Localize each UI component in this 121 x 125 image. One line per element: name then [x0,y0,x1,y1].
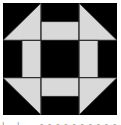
caption-fragment: - - - - - - - - - - - - [40,120,121,125]
caption-cutoff: ı ı - - - - - - - - - - - - [0,118,121,125]
caption-fragment: ı [2,120,5,125]
bar-piece [41,78,79,97]
bar-piece [22,40,41,77]
center-square [41,40,79,77]
caption-fragment: ı [17,120,20,125]
quilt-block-graphic [3,3,117,115]
quilt-block [3,3,117,115]
bar-piece [79,40,98,77]
bar-piece [41,22,79,41]
